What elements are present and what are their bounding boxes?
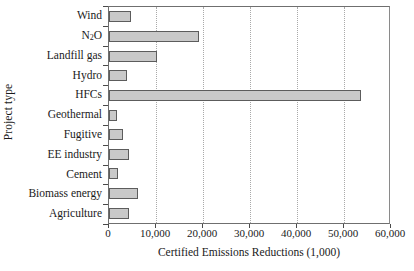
bar-row bbox=[109, 105, 389, 125]
y-axis-tick-label: EE industry bbox=[16, 145, 106, 165]
bar-row bbox=[109, 144, 389, 164]
bar-row bbox=[109, 46, 389, 66]
bar bbox=[109, 31, 199, 42]
bar bbox=[109, 70, 127, 81]
y-axis-title-text: Project type bbox=[2, 84, 14, 140]
bar-row bbox=[109, 86, 389, 106]
bar bbox=[109, 110, 117, 121]
y-axis-tick-label: Landfill gas bbox=[16, 46, 106, 66]
bar-row bbox=[109, 125, 389, 145]
x-axis-tick-label: 40,000 bbox=[281, 228, 311, 239]
bar-row bbox=[109, 203, 389, 223]
bar bbox=[109, 188, 138, 199]
y-axis-tick-label: Biomass energy bbox=[16, 184, 106, 204]
bar bbox=[109, 11, 131, 22]
bar-series bbox=[109, 7, 389, 223]
bar bbox=[109, 51, 157, 62]
bar-chart: Project type WindN2OLandfill gasHydroHFC… bbox=[0, 0, 414, 271]
y-axis-tick-label: Wind bbox=[16, 6, 106, 26]
bar-row bbox=[109, 164, 389, 184]
bar-row bbox=[109, 184, 389, 204]
x-axis-title: Certified Emissions Reductions (1,000) bbox=[108, 246, 390, 258]
bar bbox=[109, 90, 361, 101]
x-axis-tick-label: 10,000 bbox=[140, 228, 170, 239]
plot-area bbox=[108, 6, 390, 224]
y-axis-tick-label: Cement bbox=[16, 165, 106, 185]
bar-row bbox=[109, 66, 389, 86]
x-axis-tick-label: 0 bbox=[105, 228, 111, 239]
bar bbox=[109, 149, 129, 160]
x-axis-tick-label: 60,000 bbox=[375, 228, 405, 239]
bar bbox=[109, 168, 118, 179]
y-axis-tick-label: Fugitive bbox=[16, 125, 106, 145]
x-axis-tick-label: 50,000 bbox=[328, 228, 358, 239]
y-axis-tick-label: Hydro bbox=[16, 65, 106, 85]
y-axis-tick-labels: WindN2OLandfill gasHydroHFCsGeothermalFu… bbox=[16, 6, 106, 224]
y-axis-tick-label: HFCs bbox=[16, 85, 106, 105]
bar-row bbox=[109, 27, 389, 47]
bar bbox=[109, 129, 123, 140]
y-axis-tick-label: Agriculture bbox=[16, 204, 106, 224]
subscript: 2 bbox=[90, 34, 94, 42]
y-axis-title: Project type bbox=[0, 0, 16, 224]
bar-row bbox=[109, 7, 389, 27]
y-axis-tick-label: N2O bbox=[16, 26, 106, 46]
x-axis-tick-label: 20,000 bbox=[187, 228, 217, 239]
bar bbox=[109, 208, 129, 219]
x-axis-tick-labels: 010,00020,00030,00040,00050,00060,000 bbox=[108, 228, 390, 244]
x-axis-tick-label: 30,000 bbox=[234, 228, 264, 239]
y-axis-tick-label: Geothermal bbox=[16, 105, 106, 125]
